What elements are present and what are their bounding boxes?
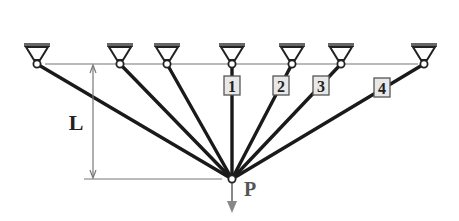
bar-number: 1 bbox=[228, 78, 236, 95]
load-label-P: P bbox=[244, 178, 256, 200]
bar-number: 4 bbox=[378, 80, 386, 97]
support-triangle-icon bbox=[26, 47, 48, 60]
bar-number: 3 bbox=[317, 78, 325, 95]
pin-icon bbox=[33, 60, 40, 67]
bar-label-3: 3 bbox=[313, 76, 329, 95]
dimension-label-L: L bbox=[69, 110, 84, 135]
load-arrow-down-icon bbox=[227, 201, 237, 213]
joint-pin-icon bbox=[228, 175, 235, 182]
bar-number: 2 bbox=[277, 78, 285, 95]
pin-icon bbox=[288, 60, 295, 67]
support-triangle-icon bbox=[221, 47, 243, 60]
bar-label-1: 1 bbox=[224, 76, 240, 95]
pin-icon bbox=[420, 60, 427, 67]
support-triangle-icon bbox=[156, 47, 178, 60]
support-triangle-icon bbox=[281, 47, 303, 60]
bar-system-diagram: 1234 L P bbox=[0, 0, 459, 221]
bar-label-2: 2 bbox=[273, 76, 289, 95]
bar-label-4: 4 bbox=[374, 78, 390, 97]
support-triangle-icon bbox=[109, 47, 131, 60]
support-triangle-icon bbox=[330, 47, 352, 60]
pin-icon bbox=[116, 60, 123, 67]
load-joint bbox=[227, 175, 237, 213]
support-triangle-icon bbox=[413, 47, 435, 60]
bar-labels: 1234 bbox=[224, 76, 390, 97]
pin-icon bbox=[228, 60, 235, 67]
pin-icon bbox=[337, 60, 344, 67]
pin-icon bbox=[163, 60, 170, 67]
